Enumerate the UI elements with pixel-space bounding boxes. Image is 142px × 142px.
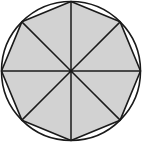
octagon-in-circle-diagram bbox=[0, 0, 142, 142]
center-point bbox=[69, 69, 72, 72]
